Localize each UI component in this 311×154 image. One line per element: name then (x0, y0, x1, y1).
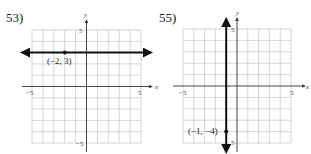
point-label: (−1, −4) (188, 126, 218, 136)
tick-y-min: −5 (76, 140, 84, 148)
x-axis-label: x (305, 83, 310, 91)
tick-x-min: −5 (26, 89, 34, 97)
graphs: x y −5 5 5 −5 (−2, 3) x y −5 5 5 5 (0, 0, 311, 154)
point (63, 51, 67, 55)
graph-53: x y −5 5 5 −5 (−2, 3) (22, 11, 159, 152)
tick-x-min: −5 (179, 89, 187, 97)
tick-y-max: 5 (79, 27, 83, 35)
point (224, 130, 228, 134)
y-axis-label: y (83, 11, 88, 19)
y-axis-label: y (235, 9, 240, 17)
tick-y-min: 5 (231, 139, 235, 147)
tick-y-max: 5 (231, 26, 235, 34)
point-label: (−2, 3) (47, 56, 72, 66)
tick-x-max: 5 (290, 89, 294, 97)
x-axis-label: x (154, 83, 159, 91)
tick-x-max: 5 (138, 89, 142, 97)
graph-55: x y −5 5 5 5 (−1, −4) (173, 9, 310, 152)
